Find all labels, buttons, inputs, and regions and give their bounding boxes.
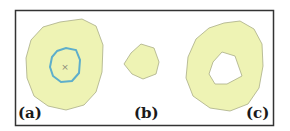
center-cross-icon: × bbox=[61, 62, 69, 72]
figure: × (a) (b) (c) bbox=[0, 0, 290, 131]
panel-label-b: (b) bbox=[134, 106, 159, 121]
panel-label-c: (c) bbox=[246, 106, 269, 121]
panel-label-a: (a) bbox=[18, 106, 42, 121]
